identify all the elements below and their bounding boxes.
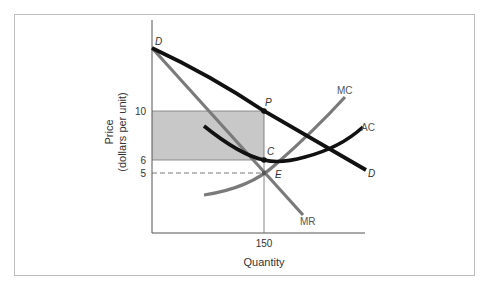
- x-tick-150: 150: [256, 238, 273, 249]
- label-c: C: [267, 146, 275, 157]
- label-d-top: D: [155, 36, 162, 47]
- label-mr: MR: [300, 216, 316, 227]
- label-p: P: [265, 97, 272, 108]
- y-axis-label: Price: [103, 119, 115, 144]
- label-d-end: D: [368, 168, 375, 179]
- label-mc: MC: [337, 85, 353, 96]
- point-c: [261, 157, 267, 163]
- label-e: E: [275, 169, 282, 180]
- x-axis-label: Quantity: [244, 256, 285, 268]
- y-axis-sublabel: (dollars per unit): [116, 92, 128, 171]
- y-tick-5: 5: [140, 168, 146, 179]
- y-tick-6: 6: [140, 155, 146, 166]
- label-ac: AC: [361, 122, 375, 133]
- point-p: [261, 108, 267, 114]
- y-tick-10: 10: [135, 106, 147, 117]
- point-e: [262, 171, 266, 175]
- monopoly-chart: D D P C E MR MC AC 10 6 5 150 Quantity P…: [0, 0, 488, 287]
